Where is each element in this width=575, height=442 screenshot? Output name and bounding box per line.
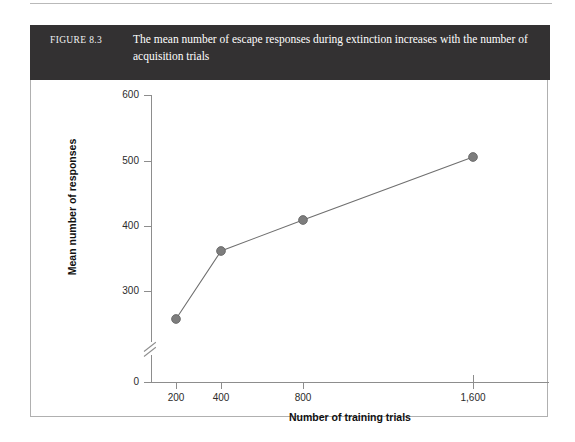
figure-card: FIGURE 8.3 The mean number of escape res… <box>30 25 548 417</box>
series-polyline <box>176 157 473 319</box>
figure-screenshot: FIGURE 8.3 The mean number of escape res… <box>0 0 575 442</box>
figure-header-band: FIGURE 8.3 The mean number of escape res… <box>30 25 550 80</box>
data-point-marker <box>299 216 308 225</box>
page-top-rule <box>30 3 552 4</box>
figure-number-label: FIGURE 8.3 <box>50 35 102 45</box>
data-series-line <box>31 81 549 417</box>
data-point-marker <box>172 315 181 324</box>
x-axis-title: Number of training trials <box>151 411 549 423</box>
y-axis-title: Mean number of responses <box>66 122 78 292</box>
figure-title-line-1: The mean number of escape responses duri… <box>133 33 477 45</box>
data-point-marker <box>469 153 478 162</box>
figure-title: The mean number of escape responses duri… <box>133 31 533 65</box>
plot-area: 600 500 400 300 0 <box>31 81 549 417</box>
data-point-marker <box>217 247 226 256</box>
